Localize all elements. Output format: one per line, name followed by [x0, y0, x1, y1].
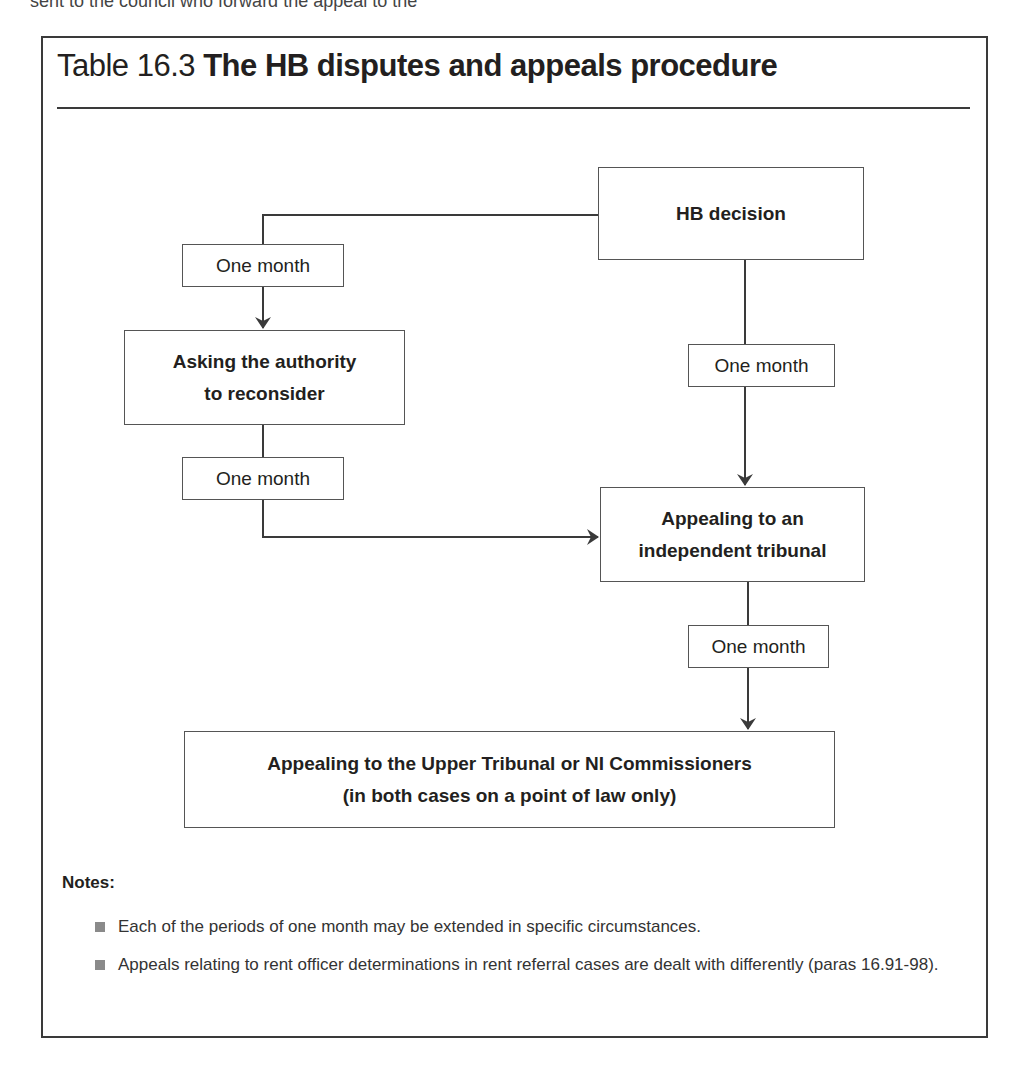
node-label-line2: (in both cases on a point of law only) [343, 780, 677, 812]
node-upper-tribunal: Appealing to the Upper Tribunal or NI Co… [184, 731, 835, 828]
node-independent-tribunal: Appealing to an independent tribunal [600, 487, 865, 582]
flow-connectors [0, 0, 1026, 1066]
period-tribunal-to-upper: One month [688, 625, 829, 668]
square-bullet-icon [95, 922, 105, 932]
node-ask-reconsider: Asking the authority to reconsider [124, 330, 405, 425]
node-label-line1: Asking the authority [173, 346, 357, 378]
node-label-line1: Appealing to an [661, 503, 804, 535]
period-reconsider-to-tribunal: One month [182, 457, 344, 500]
notes-heading: Notes: [62, 873, 115, 893]
node-label-line2: to reconsider [204, 378, 324, 410]
note-text: Appeals relating to rent officer determi… [118, 955, 939, 974]
period-label: One month [216, 468, 310, 490]
node-hb-decision: HB decision [598, 167, 864, 260]
period-label: One month [216, 255, 310, 277]
note-item: Each of the periods of one month may be … [90, 912, 950, 942]
node-label-line1: Appealing to the Upper Tribunal or NI Co… [267, 748, 752, 780]
period-decision-to-reconsider: One month [182, 244, 344, 287]
square-bullet-icon [95, 960, 105, 970]
period-label: One month [715, 355, 809, 377]
notes-list: Each of the periods of one month may be … [90, 912, 950, 988]
node-label: HB decision [676, 198, 786, 230]
node-label-line2: independent tribunal [639, 535, 827, 567]
period-label: One month [712, 636, 806, 658]
note-text: Each of the periods of one month may be … [118, 917, 701, 936]
note-item: Appeals relating to rent officer determi… [90, 950, 950, 980]
period-decision-to-tribunal: One month [688, 344, 835, 387]
